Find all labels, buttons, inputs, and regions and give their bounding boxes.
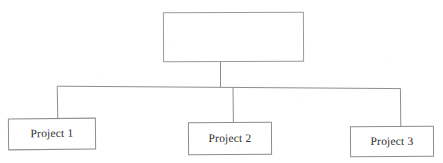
node-root-box[interactable]	[163, 12, 304, 63]
node-project-3-label: Project 3	[370, 136, 413, 148]
node-project-1-label: Project 1	[30, 128, 73, 140]
node-project-2[interactable]: Project 2	[188, 122, 272, 155]
node-project-3[interactable]: Project 3	[350, 126, 434, 157]
node-project-2-label: Project 2	[208, 133, 251, 145]
diagram-canvas: Project 1 Project 2 Project 3	[0, 0, 443, 163]
connector-drop-project-1	[57, 86, 58, 119]
connector-horizontal-bus	[57, 86, 400, 88]
node-project-1[interactable]: Project 1	[8, 118, 96, 151]
